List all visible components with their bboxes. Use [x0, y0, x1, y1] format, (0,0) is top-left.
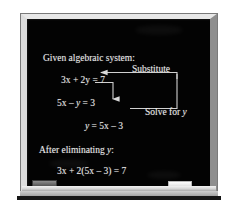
equation-one: 3x + 2y = 7 — [61, 75, 105, 86]
result-equation: 3x + 2(5x – 3) = 7 — [57, 166, 126, 177]
given-system-heading: Given algebraic system: — [43, 53, 135, 64]
substitute-label: Substitute — [132, 64, 170, 75]
substitution-return-path — [130, 74, 177, 109]
solve-for-y-label: Solve for y — [145, 107, 187, 118]
blackboard-surface: Given algebraic system: 3x + 2y = 7 5x –… — [27, 19, 210, 187]
blackboard-figure: Given algebraic system: 3x + 2y = 7 5x –… — [0, 0, 227, 213]
chalk-smudge — [147, 171, 181, 179]
chalk-smudge — [135, 25, 183, 35]
after-eliminating-heading: After eliminating y: — [39, 145, 114, 156]
chalk-tray-shadow — [17, 196, 221, 200]
equation-three-solved-for-y: y = 5x – 3 — [85, 121, 123, 132]
equation-two: 5x – y = 3 — [57, 98, 95, 109]
